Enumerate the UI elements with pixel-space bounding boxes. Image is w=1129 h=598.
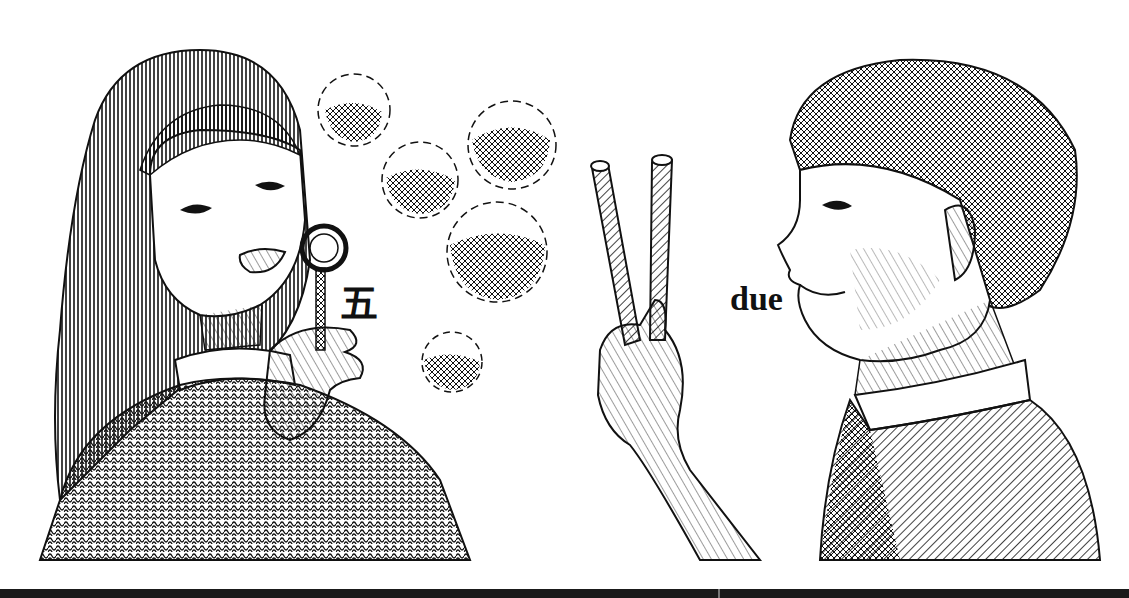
bottom-divider <box>718 589 720 598</box>
boy-figure <box>591 60 1100 560</box>
girl-figure <box>40 50 470 560</box>
label-italian-two: due <box>730 280 783 318</box>
illustration-canvas <box>0 0 1129 598</box>
bottom-border-bar <box>0 589 1129 598</box>
bubble-wand-handle <box>316 268 325 350</box>
label-chinese-five: 五 <box>340 272 378 327</box>
boy-hand <box>598 300 760 560</box>
straw-left <box>592 162 640 345</box>
